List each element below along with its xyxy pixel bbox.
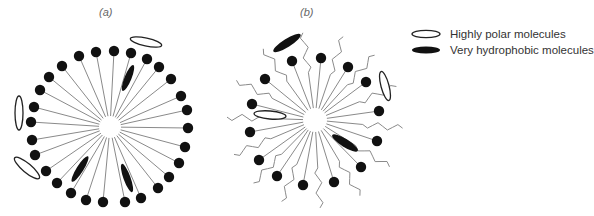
- surfactant-head: [153, 183, 163, 193]
- surfactant-tail: [120, 96, 181, 123]
- surfactant-stalk: [327, 121, 363, 124]
- surfactant-head: [183, 123, 193, 133]
- hydrophobic-molecule: [271, 31, 302, 55]
- polar-molecule: [130, 35, 163, 49]
- surfactant-head: [27, 135, 37, 145]
- surfactant-tail: [103, 138, 109, 202]
- surfactant-head: [35, 85, 45, 95]
- hydrocarbon-tail: [282, 164, 297, 201]
- open-ellipse-icon: [410, 28, 442, 40]
- surfactant-stalk: [316, 132, 318, 168]
- legend-item-polar: Highly polar molecules: [410, 26, 594, 42]
- surfactant-head: [260, 74, 270, 84]
- polar-molecule: [15, 96, 23, 130]
- panel-a-micelle: [12, 35, 193, 207]
- surfactant-tail: [96, 52, 108, 116]
- surfactant-head: [287, 56, 297, 66]
- surfactant-head: [29, 102, 39, 112]
- hydrocarbon-tail: [315, 168, 323, 208]
- surfactant-head: [91, 47, 101, 57]
- surfactant-head: [372, 136, 382, 146]
- filled-ellipse-icon: [410, 44, 442, 56]
- surfactant-head: [164, 172, 174, 182]
- surfactant-stalk: [259, 127, 305, 160]
- panel-a-label: (a): [99, 6, 112, 18]
- surfactant-head: [74, 51, 84, 61]
- surfactant-stalk: [316, 58, 321, 108]
- surfactant-head: [26, 117, 36, 127]
- surfactant-head: [254, 155, 264, 165]
- surfactant-head: [343, 62, 353, 72]
- surfactant-tail: [121, 110, 187, 125]
- surfactant-head: [136, 193, 146, 203]
- surfactant-head: [81, 195, 91, 205]
- surfactant-stalk: [319, 75, 331, 109]
- surfactant-head: [98, 197, 108, 207]
- surfactant-stalk: [308, 72, 313, 108]
- surfactant-tail: [31, 122, 99, 126]
- hydrophobic-molecule: [119, 163, 136, 194]
- surfactant-head: [245, 127, 255, 137]
- surfactant-head: [30, 150, 40, 160]
- surfactant-head: [356, 162, 366, 172]
- hydrocarbon-tail: [363, 123, 403, 130]
- surfactant-tail: [121, 127, 188, 128]
- surfactant-head: [41, 166, 51, 176]
- surfactant-head: [298, 180, 308, 190]
- hydrocarbon-tail: [300, 33, 311, 73]
- surfactant-head: [57, 61, 67, 71]
- surfactant-head: [120, 197, 130, 207]
- panel-b-micelle: [227, 31, 403, 208]
- surfactant-tail: [79, 56, 106, 117]
- surfactant-head: [44, 72, 54, 82]
- hydrocarbon-tail: [330, 37, 343, 75]
- hydrocarbon-tail: [234, 138, 271, 156]
- surfactant-head: [329, 177, 339, 187]
- surfactant-head: [174, 158, 184, 168]
- panel-b-label: (b): [300, 6, 313, 18]
- surfactant-head: [316, 53, 326, 63]
- surfactant-head: [182, 105, 192, 115]
- surfactant-tail: [71, 136, 104, 193]
- surfactant-head: [66, 188, 76, 198]
- surfactant-head: [154, 62, 164, 72]
- surfactant-stalk: [303, 132, 313, 185]
- surfactant-stalk: [250, 122, 303, 132]
- legend: Highly polar molecules Very hydrophobic …: [410, 26, 594, 58]
- surfactant-head: [109, 46, 119, 56]
- surfactant-tail: [86, 137, 107, 200]
- surfactant-tail: [111, 51, 114, 116]
- surfactant-tail: [120, 132, 179, 163]
- surfactant-head: [176, 91, 186, 101]
- surfactant-tail: [34, 107, 99, 124]
- surfactant-head: [361, 77, 371, 87]
- surfactant-head: [126, 48, 136, 58]
- surfactant-head: [142, 54, 152, 64]
- legend-item-hydrophobic: Very hydrophobic molecules: [410, 42, 594, 58]
- legend-label-hydrophobic: Very hydrophobic molecules: [450, 44, 594, 56]
- surfactant-head: [180, 142, 190, 152]
- surfactant-head: [247, 99, 257, 109]
- hydrophobic-molecule: [120, 64, 137, 93]
- surfactant-head: [272, 171, 282, 181]
- legend-label-polar: Highly polar molecules: [450, 28, 566, 40]
- surfactant-head: [52, 178, 62, 188]
- surfactant-head: [166, 74, 176, 84]
- surfactant-head: [374, 106, 384, 116]
